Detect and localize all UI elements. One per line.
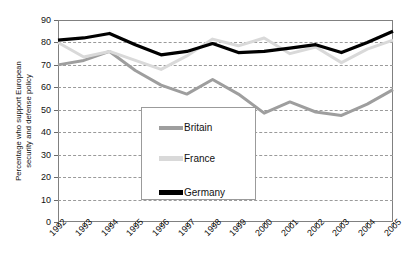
line-chart: Percentage who support European security… — [0, 0, 405, 271]
y-tick-label-50: 50 — [27, 105, 51, 115]
y-tick-label-30: 30 — [27, 150, 51, 160]
y-tick-label-90: 90 — [27, 15, 51, 25]
clipped-chart-title — [0, 0, 405, 3]
legend-swatch-france-icon — [159, 156, 183, 161]
legend-label-britain: Britain — [183, 122, 212, 133]
y-tick-label-20: 20 — [27, 172, 51, 182]
legend-label-germany: Germany — [183, 187, 225, 198]
y-tick-label-0: 0 — [27, 217, 51, 227]
legend-item-france[interactable]: France — [159, 153, 215, 164]
legend[interactable]: BritainFranceGermany — [141, 107, 256, 200]
y-axis-title-line-1: Percentage who support European — [14, 61, 24, 181]
y-axis-title-line-2: security and defense policy — [24, 61, 34, 181]
legend-label-france: France — [183, 153, 215, 164]
legend-swatch-britain-icon — [159, 126, 183, 130]
legend-item-britain[interactable]: Britain — [159, 122, 212, 133]
legend-item-germany[interactable]: Germany — [159, 187, 225, 198]
legend-swatch-germany-icon — [159, 190, 183, 195]
y-tick-label-40: 40 — [27, 127, 51, 137]
y-tick-label-80: 80 — [27, 37, 51, 47]
y-axis-title: Percentage who support European security… — [11, 19, 37, 224]
y-tick-label-10: 10 — [27, 195, 51, 205]
y-tick-label-70: 70 — [27, 60, 51, 70]
y-tick-label-60: 60 — [27, 82, 51, 92]
